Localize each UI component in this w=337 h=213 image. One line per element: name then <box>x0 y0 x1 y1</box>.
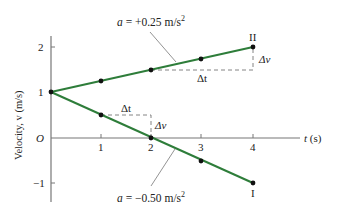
line-i-delta-v: Δv <box>154 119 166 131</box>
y-tick-minus1: −1 <box>33 177 45 189</box>
accel-ii-leader <box>150 32 176 62</box>
line-ii-delta-t: Δt <box>197 72 207 84</box>
x-tick-2: 2 <box>148 141 154 153</box>
line-ii-delta-v: Δv <box>258 53 270 65</box>
x-tick-4: 4 <box>250 141 256 153</box>
y-axis-title: Velocity, v (m/s) <box>13 90 25 160</box>
accel-i-leader <box>151 149 175 186</box>
line-i-label: I <box>251 187 255 199</box>
accel-i-label: a = −0.50 m/s2 <box>117 190 185 204</box>
accel-ii-label: a = +0.25 m/s2 <box>117 14 185 28</box>
line-i-delta-t: Δt <box>121 102 131 114</box>
y-tick-1: 1 <box>38 86 44 98</box>
y-tick-origin: O <box>36 132 44 144</box>
x-tick-1: 1 <box>98 141 104 153</box>
line-ii-label: II <box>249 31 257 43</box>
x-tick-3: 3 <box>198 141 204 153</box>
data-points <box>49 45 256 186</box>
x-axis-title: t (s) <box>304 132 322 145</box>
velocity-time-graph: 2 1 O −1 1 2 3 4 t (s) Velocity, v (m/s)… <box>0 0 337 213</box>
y-tick-2: 2 <box>38 41 44 53</box>
